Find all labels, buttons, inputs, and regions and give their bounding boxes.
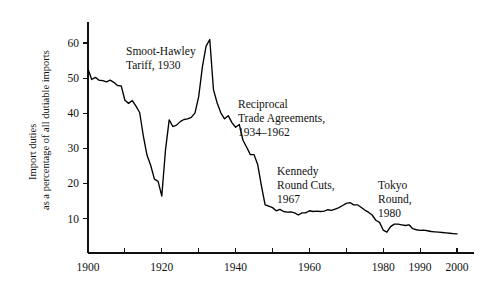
x-tick-label: 1920 xyxy=(150,261,173,273)
annotation-reciprocal-trade: ReciprocalTrade Agreements,1934–1962 xyxy=(238,98,325,138)
annotation-kennedy-round: KennedyRound Cuts,1967 xyxy=(277,165,335,205)
x-tick-label: 1940 xyxy=(224,261,247,273)
annotation-line: 1980 xyxy=(378,207,401,219)
x-tick-label: 1900 xyxy=(77,261,100,273)
y-tick-label: 60 xyxy=(68,37,80,49)
y-tick-label: 40 xyxy=(68,107,80,119)
x-tick-label: 1960 xyxy=(298,261,321,273)
y-tick-label: 30 xyxy=(68,142,80,154)
annotation-line: Trade Agreements, xyxy=(238,112,325,125)
annotation-line: Smoot-Hawley xyxy=(126,45,196,58)
y-tick-label: 50 xyxy=(68,72,80,84)
y-axis-label-line1: Import duties xyxy=(27,124,38,180)
y-axis-ticks: 102030405060 xyxy=(68,37,89,225)
tariff-line-chart: Import duties as a percentage of all dut… xyxy=(0,0,496,296)
annotation-smoot-hawley: Smoot-HawleyTariff, 1930 xyxy=(126,45,196,72)
x-axis-ticks: 1900192019401960198019902000 xyxy=(77,248,469,273)
y-axis-label-line2: as a percentage of all dutiable imports xyxy=(40,50,51,210)
x-tick-label: 1990 xyxy=(409,261,432,273)
annotation-line: Kennedy xyxy=(277,165,319,178)
annotation-line: Tariff, 1930 xyxy=(126,59,181,72)
annotation-line: 1934–1962 xyxy=(238,126,290,138)
chart-page: Import duties as a percentage of all dut… xyxy=(0,0,496,296)
annotation-tokyo-round: TokyoRound,1980 xyxy=(378,179,412,219)
annotation-line: 1967 xyxy=(277,193,300,205)
annotation-line: Round Cuts, xyxy=(277,179,335,192)
annotation-line: Reciprocal xyxy=(238,98,288,111)
annotation-line: Round, xyxy=(378,193,412,206)
y-tick-label: 20 xyxy=(68,177,80,189)
y-tick-label: 10 xyxy=(68,213,80,225)
chart-annotations: Smoot-HawleyTariff, 1930ReciprocalTrade … xyxy=(126,45,412,219)
x-tick-label: 2000 xyxy=(446,261,469,273)
x-tick-label: 1980 xyxy=(372,261,395,273)
annotation-line: Tokyo xyxy=(378,179,407,192)
